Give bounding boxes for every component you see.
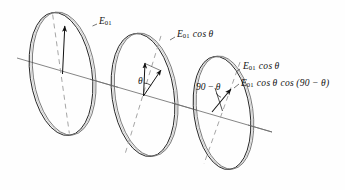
label-disc3a-cos-theta: cos θ xyxy=(259,61,280,71)
leader-disc-1 xyxy=(93,24,98,26)
disc-1-rim-outer xyxy=(22,8,101,139)
diagram-canvas xyxy=(0,0,345,190)
disc-2-projection-line xyxy=(145,64,161,71)
label-e01-cos-theta-disc2: E01cos θ xyxy=(177,30,214,40)
label-e01-disc1-subscript: 01 xyxy=(105,19,112,26)
label-e01-cos-theta-cos-ninety-minus-theta: E01cos θcos (90 − θ) xyxy=(241,79,329,89)
polarization-diagram: E01 E01cos θ E01cos θ E01cos θcos (90 − … xyxy=(0,0,345,190)
disc-2-rim-inner xyxy=(107,29,186,160)
label-angle-ninety-minus-theta: 90 − θ xyxy=(196,83,220,93)
label-e01-disc3a-subscript: 01 xyxy=(249,64,256,71)
leader-disc-2 xyxy=(170,37,175,40)
label-e01-disc1: E01 xyxy=(99,17,112,27)
field-vector-e01 xyxy=(63,26,65,74)
disc-1-transmission-axis xyxy=(53,15,70,134)
label-disc2-cos-theta: cos θ xyxy=(193,29,214,39)
label-e01-cos-theta-disc3: E01cos θ xyxy=(243,62,280,72)
label-angle-theta: θ xyxy=(138,77,143,87)
angle-arc-theta xyxy=(144,83,151,86)
label-disc3b-cos-theta: cos θ xyxy=(257,78,278,88)
label-e01-disc2-subscript: 01 xyxy=(183,32,190,39)
leader-disc-3-b xyxy=(234,84,239,88)
label-e01-disc3b-subscript: 01 xyxy=(247,81,254,88)
disc-1-rim-inner xyxy=(25,8,104,139)
label-disc3b-cos-paren: cos (90 − θ) xyxy=(281,78,330,88)
